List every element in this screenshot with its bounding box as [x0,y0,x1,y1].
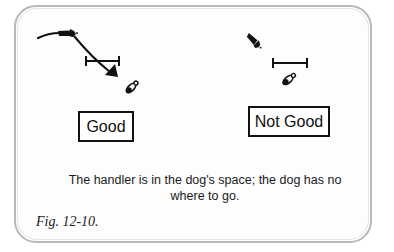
figure-number: Fig. 12-10. [36,214,99,230]
not-good-panel [245,32,307,86]
dog-icon [281,72,296,86]
not-good-label-box: Not Good [248,106,330,137]
dog-icon [125,80,140,95]
figure-caption: The handler is in the dog's space; the d… [50,172,360,204]
distance-bar-icon [273,58,307,68]
movement-arrow-icon [74,36,118,77]
good-panel [38,29,139,94]
handler-icon [245,32,264,51]
not-good-label: Not Good [255,113,323,131]
good-label: Good [86,118,125,136]
handler-path-icon [38,33,60,38]
good-label-box: Good [78,111,134,142]
